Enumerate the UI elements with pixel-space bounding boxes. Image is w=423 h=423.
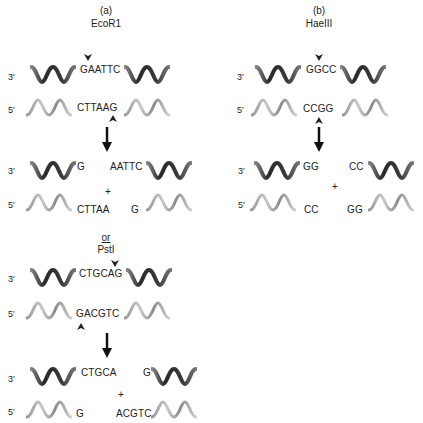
dna-top-strand-helix: [30, 366, 76, 386]
dna-bottom-strand-helix: [342, 97, 388, 117]
dna-top-strand-helix: [146, 160, 192, 180]
dna-bottom-strand-helix: [124, 97, 170, 117]
panel-a-label: (a): [66, 5, 146, 17]
strand-end-3prime: 3′: [8, 274, 15, 284]
strand-end-5prime: 5′: [238, 200, 245, 210]
dna-bottom-strand-helix: [26, 399, 72, 419]
pstI-enzyme-title: PstI: [66, 244, 146, 256]
recognition-site-bottom: GACGTC: [76, 308, 119, 319]
fragment-blunt-end: CC: [304, 204, 319, 215]
reaction-arrow-down-icon: [312, 127, 326, 153]
fragment-sticky-end: CTGCA: [81, 367, 117, 378]
dna-top-strand-helix: [151, 366, 197, 386]
dna-top-strand-helix: [255, 64, 301, 84]
dna-bottom-strand-helix: [146, 192, 192, 212]
cut-site-arrowhead-down-icon: [111, 260, 119, 268]
strand-end-5prime: 5′: [8, 200, 15, 210]
strand-end-5prime: 5′: [8, 407, 15, 417]
cut-site-arrowhead-up-icon: [77, 322, 85, 330]
dna-bottom-strand-helix: [124, 300, 170, 320]
panel-a-enzyme-title: EcoR1: [66, 18, 146, 30]
plus-sign: +: [105, 187, 111, 197]
reaction-arrow-down-icon: [100, 127, 114, 153]
recognition-site-top: GGCC: [306, 64, 336, 75]
strand-end-3prime: 3′: [8, 72, 15, 82]
recognition-site-top: CTGCAG: [79, 268, 122, 279]
reaction-arrow-down-icon: [100, 333, 114, 359]
cut-site-arrowhead-up-icon: [109, 114, 117, 122]
fragment-sticky-end: ACGTC: [116, 408, 152, 419]
dna-top-strand-helix: [124, 64, 170, 84]
fragment-blunt-end: GG: [303, 161, 319, 172]
panel-b-enzyme-title: HaeIII: [279, 18, 359, 30]
dna-top-strand-helix: [30, 64, 76, 84]
dna-bottom-strand-helix: [26, 192, 72, 212]
cut-site-arrowhead-down-icon: [84, 54, 92, 62]
fragment-sticky-end: G: [131, 204, 139, 215]
strand-end-3prime: 3′: [8, 166, 15, 176]
dna-top-strand-helix: [368, 160, 414, 180]
strand-end-3prime: 3′: [238, 166, 245, 176]
cut-site-arrowhead-up-icon: [315, 116, 323, 124]
strand-end-3prime: 3′: [8, 374, 15, 384]
dna-top-strand-helix: [30, 160, 76, 180]
dna-top-strand-helix: [254, 160, 300, 180]
fragment-blunt-end: GG: [347, 204, 363, 215]
strand-end-3prime: 3′: [237, 72, 244, 82]
recognition-site-top: GAATTC: [80, 64, 120, 75]
dna-bottom-strand-helix: [26, 300, 72, 320]
dna-bottom-strand-helix: [251, 97, 297, 117]
or-label: or: [66, 232, 146, 244]
fragment-sticky-end: G: [143, 367, 151, 378]
plus-sign: +: [118, 390, 124, 400]
fragment-blunt-end: CC: [349, 161, 364, 172]
dna-top-strand-helix: [30, 267, 76, 287]
recognition-site-bottom: CTTAAG: [77, 102, 117, 113]
recognition-site-bottom: CCGG: [303, 103, 333, 114]
fragment-sticky-end: AATTC: [110, 161, 143, 172]
plus-sign: +: [332, 182, 338, 192]
dna-top-strand-helix: [126, 267, 172, 287]
strand-end-5prime: 5′: [8, 105, 15, 115]
dna-top-strand-helix: [340, 64, 386, 84]
fragment-sticky-end: G: [77, 161, 85, 172]
dna-bottom-strand-helix: [368, 192, 414, 212]
panel-b-label: (b): [279, 5, 359, 17]
dna-bottom-strand-helix: [250, 192, 296, 212]
strand-end-5prime: 5′: [8, 309, 15, 319]
dna-bottom-strand-helix: [26, 97, 72, 117]
strand-end-5prime: 5′: [237, 105, 244, 115]
dna-bottom-strand-helix: [151, 399, 197, 419]
fragment-sticky-end: G: [76, 408, 84, 419]
fragment-sticky-end: CTTAA: [77, 204, 110, 215]
cut-site-arrowhead-down-icon: [315, 54, 323, 62]
